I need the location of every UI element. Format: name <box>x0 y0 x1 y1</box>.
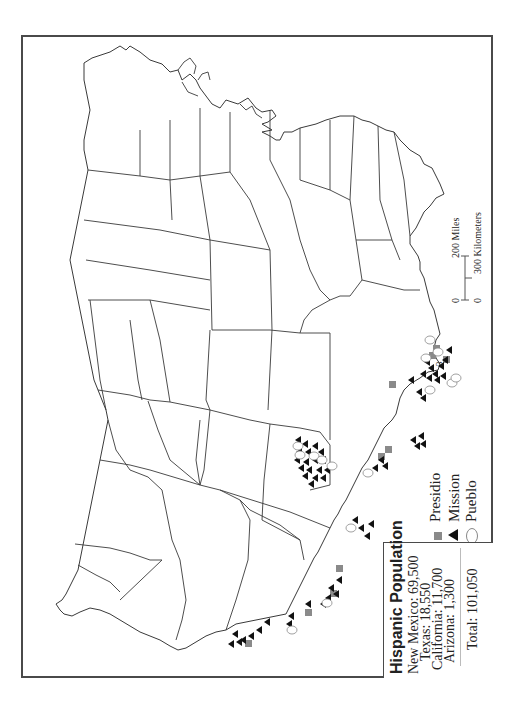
scale-miles-zero: 0 <box>450 298 461 303</box>
presidio-icon <box>434 532 442 540</box>
mission-label: Mission <box>446 474 463 522</box>
florida-marker-label: 3 <box>434 362 444 367</box>
legend-row-value: 1,300 <box>442 579 457 611</box>
scale-km-label: 300 Kilometers <box>472 212 483 274</box>
scale-miles-label: 200 Miles <box>450 218 461 258</box>
scale-bar <box>461 256 472 300</box>
legend-title: Hispanic Population <box>388 520 406 674</box>
great-lakes-outline <box>178 58 262 118</box>
pueblo-label: Pueblo <box>463 480 480 522</box>
presidio-label: Presidio <box>427 473 444 522</box>
legend-total: Total: 101,050 <box>465 569 481 650</box>
legend-row-arizona: Arizona: 1,300 <box>442 579 458 663</box>
legend-divider <box>460 548 461 666</box>
state-boundaries <box>75 108 420 640</box>
mission-icon <box>447 528 459 542</box>
scale-km-zero: 0 <box>472 298 483 303</box>
legend-row-label: Arizona: <box>442 614 457 663</box>
